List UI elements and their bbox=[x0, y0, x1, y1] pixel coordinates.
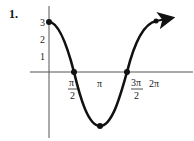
x-label-3pi-half-num: 3π bbox=[131, 77, 141, 88]
x-label-pi-half-num: π bbox=[69, 77, 74, 88]
point-pi-neg3 bbox=[97, 123, 103, 129]
point-3pi-half-0 bbox=[124, 69, 130, 75]
x-label-pi-half-den: 2 bbox=[70, 90, 75, 101]
y-label-1: 1 bbox=[40, 51, 45, 62]
x-label-pi: π bbox=[97, 78, 102, 89]
point-end bbox=[154, 19, 159, 24]
cosine-graph: 3 2 1 π 2 π 3π 2 2π bbox=[0, 0, 194, 141]
y-label-2: 2 bbox=[40, 34, 45, 45]
x-label-3pi-half-den: 2 bbox=[134, 90, 139, 101]
cosine-curve bbox=[49, 21, 156, 126]
y-label-3: 3 bbox=[40, 17, 45, 28]
point-pi-half-0 bbox=[71, 69, 77, 75]
x-label-2pi: 2π bbox=[149, 78, 159, 89]
point-0-3 bbox=[46, 19, 52, 25]
